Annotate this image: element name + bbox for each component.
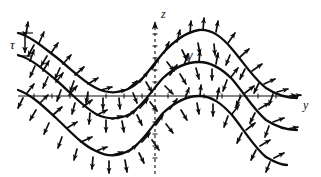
lower-offset-curve (18, 90, 287, 165)
tau-offset-label: τ (10, 38, 15, 51)
math-figure-canvas: z y γ τ (0, 0, 321, 177)
normals-upper-curve-outer (26, 18, 301, 96)
gamma-curve-label: γ (187, 49, 193, 63)
figure-svg (0, 0, 321, 177)
upper-offset-curve (18, 30, 297, 98)
y-axis-label: y (303, 99, 308, 111)
z-axis (153, 22, 158, 174)
z-axis-label: z (161, 8, 166, 20)
